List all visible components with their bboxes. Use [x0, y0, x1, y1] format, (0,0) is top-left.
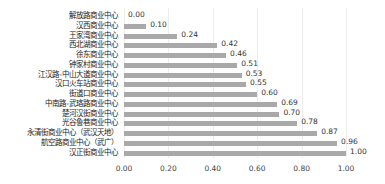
bar [124, 131, 317, 136]
category-label: 西北湖商业中心 [69, 40, 118, 50]
x-tick-label: 0.80 [293, 164, 310, 173]
category-label: 楚河汉街商业中心 [62, 109, 118, 119]
bar [124, 92, 257, 97]
bar [124, 73, 242, 78]
category-label: 光谷鲁巷商业中心 [62, 118, 118, 128]
bar-row: 中南路-武珞路商业中心0.69 [0, 100, 385, 110]
bar [124, 82, 246, 87]
bar-row: 解放路商业中心0.00 [0, 12, 385, 22]
value-label: 0.70 [283, 108, 300, 118]
category-label: 汉口火车站商业中心 [55, 79, 118, 89]
value-label: 0.60 [261, 88, 278, 98]
value-label: 0.42 [221, 39, 238, 49]
bar [124, 151, 346, 156]
value-label: 0.87 [321, 127, 338, 137]
category-label: 解放路商业中心 [69, 11, 118, 21]
bar-row: 西北湖商业中心0.42 [0, 41, 385, 51]
value-label: 0.24 [181, 30, 198, 40]
category-label: 汉正街商业中心 [69, 148, 118, 158]
bar-row: 徐东商业中心0.46 [0, 51, 385, 61]
value-label: 0.53 [246, 69, 263, 79]
category-label: 街道口商业中心 [69, 89, 118, 99]
value-label: 0.55 [250, 78, 267, 88]
bar [124, 53, 226, 58]
category-label: 中南路-武珞路商业中心 [45, 99, 118, 109]
bar-row: 王家湾商业中心0.24 [0, 32, 385, 42]
bar-row: 楚河汉街商业中心0.70 [0, 110, 385, 120]
bar [124, 112, 279, 117]
category-label: 徐东商业中心 [76, 50, 118, 60]
value-label: 0.69 [281, 98, 298, 108]
category-label: 王家湾商业中心 [69, 31, 118, 41]
category-label: 汉西商业中心 [76, 21, 118, 31]
bar-row: 汉正街商业中心1.00 [0, 149, 385, 159]
bar [124, 63, 237, 68]
bar [124, 43, 217, 48]
value-label: 0.78 [301, 117, 318, 127]
bar-row: 航空路商业中心（武广）0.96 [0, 139, 385, 149]
bar [124, 34, 177, 39]
x-tick-label: 0.40 [204, 164, 221, 173]
category-label: 钟家村商业中心 [69, 60, 118, 70]
value-label: 1.00 [350, 147, 367, 157]
x-tick-label: 0.20 [160, 164, 177, 173]
x-tick-label: 0.00 [116, 164, 133, 173]
value-label: 0.00 [128, 10, 145, 20]
bar [124, 121, 297, 126]
category-label: 航空路商业中心（武广） [41, 138, 118, 148]
category-label: 江汉路-中山大道商业中心 [38, 70, 118, 80]
value-label: 0.10 [150, 20, 167, 30]
value-label: 0.51 [241, 59, 258, 69]
value-label: 0.46 [230, 49, 247, 59]
x-tick-label: 0.60 [249, 164, 266, 173]
value-label: 0.96 [341, 137, 358, 147]
bar-row: 汉口火车站商业中心0.55 [0, 80, 385, 90]
bar [124, 102, 277, 107]
bar [124, 141, 337, 146]
x-tick-label: 1.00 [338, 164, 355, 173]
bar [124, 24, 146, 29]
category-label: 永清街商业中心（武汉天地） [27, 128, 118, 138]
horizontal-bar-chart: 解放路商业中心0.00汉西商业中心0.10王家湾商业中心0.24西北湖商业中心0… [0, 0, 385, 184]
